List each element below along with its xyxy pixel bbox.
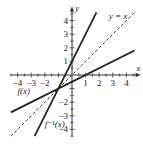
y-tick-label: −2	[58, 97, 68, 107]
y-tick-label: 3	[64, 29, 69, 39]
y-axis-label: y	[74, 3, 79, 13]
plot-lines	[11, 12, 135, 136]
plot-labels: −4−3−212344321−2−3−4xyy = xf(x)f⁻¹(x)	[13, 3, 141, 134]
series-line	[11, 12, 135, 136]
x-tick-label: 4	[124, 78, 129, 88]
x-tick-label: 1	[83, 78, 88, 88]
x-tick-label: −2	[40, 78, 50, 88]
x-axis-arrow-icon	[136, 73, 141, 77]
annotation-label: y = x	[108, 11, 128, 21]
annotation-label: f⁻¹(x)	[45, 119, 65, 129]
x-axis-label: x	[136, 63, 141, 73]
y-axis-arrow-icon	[70, 6, 74, 11]
function-inverse-graph: −4−3−212344321−2−3−4xyy = xf(x)f⁻¹(x)	[0, 0, 143, 148]
annotation-label: f(x)	[18, 86, 31, 96]
y-tick-label: 2	[64, 43, 69, 53]
x-tick-label: 2	[97, 78, 102, 88]
x-tick-label: 3	[111, 78, 116, 88]
y-tick-label: 4	[64, 16, 69, 26]
y-tick-label: 1	[64, 56, 69, 66]
